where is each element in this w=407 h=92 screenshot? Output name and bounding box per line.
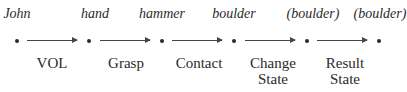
node-label-john: John: [3, 6, 30, 22]
edge-label-contact: Contact: [176, 55, 223, 71]
edge-label-change-state: ChangeState: [250, 55, 296, 87]
node-dot: [305, 39, 309, 43]
node-dot: [87, 39, 91, 43]
edge-label-result-state: ResultState: [326, 55, 364, 87]
node-dot: [232, 39, 236, 43]
arrow-icon: [100, 40, 150, 41]
node-dot: [15, 39, 19, 43]
arrow-icon: [172, 40, 222, 41]
node-label-hand: hand: [81, 6, 109, 22]
node-dot: [377, 39, 381, 43]
node-label-boulder-3: (boulder): [354, 6, 407, 22]
node-dot: [160, 39, 164, 43]
arrow-icon: [245, 40, 295, 41]
edge-label-grasp: Grasp: [108, 55, 144, 71]
node-label-boulder: boulder: [212, 6, 256, 22]
node-label-boulder-2: (boulder): [287, 6, 340, 22]
arrow-icon: [27, 40, 77, 41]
arrow-icon: [317, 40, 367, 41]
node-label-hammer: hammer: [139, 6, 185, 22]
edge-label-vol: VOL: [37, 55, 68, 71]
